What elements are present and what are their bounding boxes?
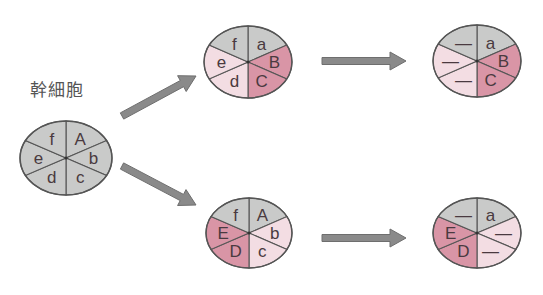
segment-label: d [47,168,56,187]
segment-label: D [230,242,242,261]
arrow-upper-to-right [322,52,406,70]
arrow-stem-to-lower [120,163,196,206]
arrow-lower-to-right [322,229,406,247]
cell-center-dot [475,59,478,62]
segment-label: f [232,35,237,54]
segment-label: a [486,34,496,53]
segment-label: c [76,168,85,187]
segment-label: — [455,34,472,53]
cell-differentiation-diagram: AbcdefaBCdefaBC———AbcDEfa——DE— [0,0,543,295]
diagram-canvas: 幹細胞 AbcdefaBCdefaBC———AbcDEfa——DE— [0,0,543,295]
cell-center-dot [246,60,249,63]
segment-label: C [484,71,496,90]
segment-label: D [457,242,469,261]
arrow-stem-to-upper [120,76,196,119]
segment-label: a [486,206,496,225]
segment-label: d [230,72,239,91]
segment-label: e [34,149,43,168]
stem-cell-label: 幹細胞 [30,76,84,101]
segment-label: — [455,206,472,225]
segment-label: f [233,206,238,225]
segment-label: A [257,206,269,225]
lower-differentiated-cell: a——DE— [433,198,521,268]
segment-label: A [75,130,87,149]
stem-cell-cell: Abcdef [20,121,112,195]
cell-center-dot [475,231,478,234]
upper-daughter-cell: aBCdef [204,26,292,98]
segment-label: f [49,130,54,149]
upper-differentiated-cell: aBC——— [433,25,521,97]
cell-center-dot [247,231,250,234]
segment-label: b [270,224,279,243]
segment-label: — [482,242,499,261]
segment-label: B [498,52,509,71]
segment-label: c [258,242,267,261]
segment-label: B [269,53,280,72]
segment-label: — [442,52,459,71]
segment-label: E [445,224,456,243]
segment-label: e [217,53,226,72]
segment-label: — [495,224,512,243]
segment-label: b [89,149,98,168]
cell-center-dot [64,156,67,159]
segment-label: C [255,72,267,91]
lower-daughter-cell: AbcDEf [206,198,292,268]
segment-label: E [218,224,229,243]
segment-label: — [455,71,472,90]
segment-label: a [257,35,267,54]
